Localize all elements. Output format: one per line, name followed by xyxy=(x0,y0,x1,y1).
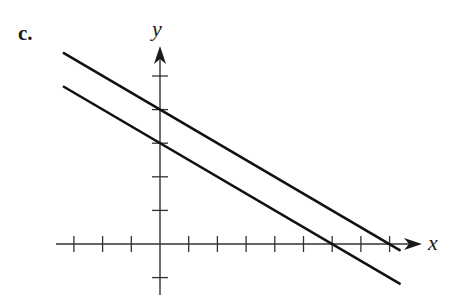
x-axis-label: x xyxy=(427,230,438,255)
upper-line xyxy=(64,53,400,250)
part-label: c. xyxy=(18,21,33,45)
lower-line xyxy=(64,87,400,284)
figure-panel: c. y x xyxy=(0,0,458,307)
plotted-lines xyxy=(64,53,400,283)
coordinate-plane: c. y x xyxy=(0,0,458,307)
y-axis-label: y xyxy=(150,16,162,41)
